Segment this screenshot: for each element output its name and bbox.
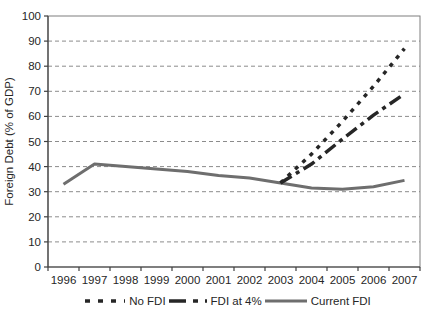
y-tick-label: 50 xyxy=(28,136,41,148)
x-tick-label: 2000 xyxy=(175,274,201,286)
series-line-current-fdi xyxy=(64,164,405,189)
solid-line-sample-icon xyxy=(264,297,308,305)
y-axis-title: Foreign Debt (% of GDP) xyxy=(3,77,15,206)
x-tick-label: 2007 xyxy=(392,274,418,286)
x-tick-label: 2001 xyxy=(206,274,232,286)
x-tick-label: 1997 xyxy=(82,274,108,286)
legend-label: No FDI xyxy=(129,295,165,307)
x-tick-label: 2005 xyxy=(330,274,356,286)
plot-area: 0102030405060708090100199619971998199920… xyxy=(0,0,427,295)
line-chart-figure: 0102030405060708090100199619971998199920… xyxy=(0,0,427,327)
y-tick-label: 0 xyxy=(35,261,41,273)
x-tick-label: 1996 xyxy=(51,274,77,286)
legend-item-no-fdi: No FDI xyxy=(84,295,165,307)
chart-legend: No FDI FDI at 4% Current FDI xyxy=(0,295,427,307)
series-line-fdi-at-4- xyxy=(281,94,405,183)
y-tick-label: 20 xyxy=(28,211,41,223)
x-tick-label: 1999 xyxy=(144,274,170,286)
legend-label: Current FDI xyxy=(311,295,371,307)
x-tick-label: 2003 xyxy=(268,274,294,286)
y-tick-label: 90 xyxy=(28,35,41,47)
y-tick-label: 100 xyxy=(22,10,41,22)
x-tick-label: 2002 xyxy=(237,274,263,286)
x-tick-label: 1998 xyxy=(113,274,139,286)
y-tick-label: 10 xyxy=(28,236,41,248)
x-tick-label: 2006 xyxy=(361,274,387,286)
x-tick-label: 2004 xyxy=(299,274,325,286)
y-tick-label: 40 xyxy=(28,161,41,173)
y-tick-label: 60 xyxy=(28,110,41,122)
y-tick-label: 80 xyxy=(28,60,41,72)
legend-item-fdi-at-4: FDI at 4% xyxy=(168,295,262,307)
y-tick-label: 30 xyxy=(28,186,41,198)
y-tick-label: 70 xyxy=(28,85,41,97)
dashed-line-sample-icon xyxy=(168,297,208,305)
legend-label: FDI at 4% xyxy=(211,295,262,307)
dotted-line-sample-icon xyxy=(84,297,126,305)
series-line-no-fdi xyxy=(281,49,405,183)
legend-item-current-fdi: Current FDI xyxy=(264,295,371,307)
